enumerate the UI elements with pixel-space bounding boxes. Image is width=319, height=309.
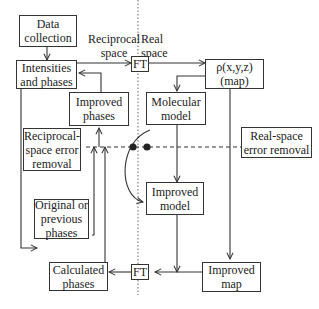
improved-phases-node: Improved phases: [69, 92, 129, 126]
original-phases-node: Original or previous phases: [34, 199, 89, 239]
data-collection-node: Data collection: [19, 15, 77, 47]
diagram-canvas: Reciprocal space Real space Data collect…: [0, 0, 319, 309]
real-space-label: Real space: [141, 18, 181, 60]
ft-bottom-node: FT: [131, 264, 149, 280]
ft-top-node: FT: [131, 56, 149, 72]
density-map-node: ρ(x,y,z) (map): [205, 59, 264, 89]
dot-left: [129, 143, 136, 150]
improved-map-node: Improved map: [202, 262, 261, 292]
calculated-phases-node: Calculated phases: [49, 262, 108, 291]
dot-right: [143, 143, 150, 150]
molecular-model-node: Molecular model: [146, 92, 206, 125]
real-space-error-removal-node: Real-space error removal: [241, 127, 312, 158]
reciprocal-error-removal-node: Reciprocal- space error removal: [23, 128, 81, 171]
intensities-phases-node: Intensities and phases: [16, 60, 77, 89]
reciprocal-space-label: Reciprocal space: [88, 18, 140, 60]
improved-model-node: Improved model: [146, 182, 204, 215]
